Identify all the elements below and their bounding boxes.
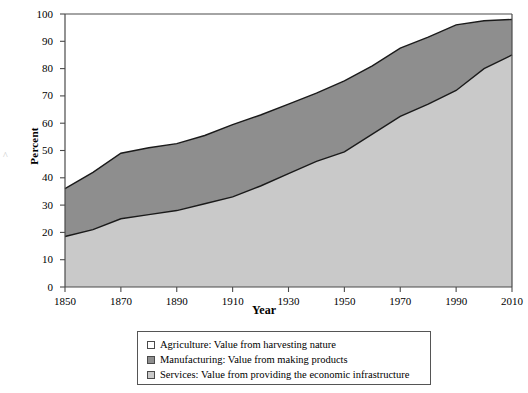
legend-label-manufacturing: Manufacturing: Value from making product… [160,354,348,366]
y-tick-label-90: 90 [27,36,53,47]
y-tick-label-100: 100 [27,9,53,20]
legend-label-agriculture: Agriculture: Value from harvesting natur… [160,339,336,351]
y-tick-label-80: 80 [27,63,53,74]
legend-swatch-manufacturing [147,356,155,364]
legend-item-services: Services: Value from providing the econo… [147,368,430,382]
y-tick-label-20: 20 [27,227,53,238]
chart-legend: Agriculture: Value from harvesting natur… [137,331,431,385]
legend-item-agriculture: Agriculture: Value from harvesting natur… [147,338,430,352]
y-tick-label-0: 0 [27,282,53,293]
legend-item-manufacturing: Manufacturing: Value from making product… [147,353,430,367]
y-axis-ticks [60,14,65,287]
y-tick-label-30: 30 [27,200,53,211]
y-tick-label-70: 70 [27,90,53,101]
x-axis-title: Year [0,303,528,318]
area-chart: 0102030405060708090100 18501870189019101… [0,0,528,325]
legend-swatch-agriculture [147,341,155,349]
chart-page: ^ 0102030405060708090100 185018701890191… [0,0,528,393]
y-axis-title: Percent [28,106,40,186]
chart-plot-svg [0,0,528,325]
y-tick-label-10: 10 [27,254,53,265]
x-axis-ticks [65,287,512,292]
legend-label-services: Services: Value from providing the econo… [160,369,409,381]
legend-swatch-services [147,371,155,379]
